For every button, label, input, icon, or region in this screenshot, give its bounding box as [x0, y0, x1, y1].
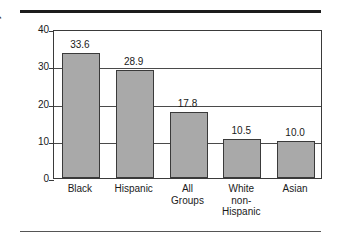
bottom-divider-rule: [20, 231, 321, 232]
bar-chart-figure: 010203040 Poverty rate 33.628.917.810.51…: [0, 0, 341, 246]
y-axis-tick: [49, 31, 54, 32]
x-axis-category-label: Hispanic: [104, 183, 164, 195]
x-axis-category-label: All Groups: [158, 183, 218, 206]
bar: [277, 141, 315, 178]
y-axis-tick: [49, 106, 54, 107]
x-axis-category-label: Black: [50, 183, 110, 195]
x-axis-category-label: White non- Hispanic: [211, 183, 271, 218]
y-axis-tick-label: 10: [38, 137, 49, 147]
y-axis-tick: [49, 180, 54, 181]
bar-value-label: 33.6: [50, 40, 110, 50]
y-axis-tick: [49, 143, 54, 144]
bar: [223, 139, 261, 178]
bar: [116, 70, 154, 178]
y-axis-tick-label: 20: [38, 100, 49, 110]
bar-value-label: 28.9: [104, 57, 164, 67]
y-axis-tick-label: 40: [38, 25, 49, 35]
bar-value-label: 10.5: [211, 126, 271, 136]
y-axis-tick-label: 30: [38, 62, 49, 72]
y-axis-tick: [49, 68, 54, 69]
bar: [62, 53, 100, 178]
y-axis-tick-label: 0: [43, 174, 49, 184]
bar: [170, 112, 208, 178]
bar-value-label: 10.0: [265, 128, 325, 138]
bar-value-label: 17.8: [158, 99, 218, 109]
x-axis-category-label: Asian: [265, 183, 325, 195]
y-axis-title: Poverty rate: [0, 0, 1, 48]
top-divider-rule: [20, 10, 321, 13]
